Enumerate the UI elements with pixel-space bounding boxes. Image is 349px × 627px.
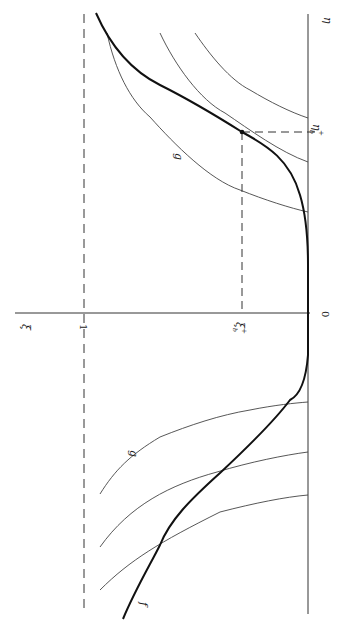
- svg-text:b: b: [232, 328, 239, 332]
- xi-b-plus-label: ξ b +: [232, 322, 248, 334]
- svg-text:b: b: [309, 130, 316, 134]
- svg-text:+: +: [317, 130, 325, 136]
- eta-b-plus-label: η b +: [309, 124, 325, 136]
- svg-text:+: +: [240, 328, 248, 334]
- xi-axis-label: ξ: [19, 324, 32, 331]
- g-curve-lower-3: [100, 495, 308, 590]
- g-label-lower: g: [127, 450, 140, 457]
- f-label: f: [137, 601, 150, 608]
- eta-axis-label: η: [321, 17, 334, 24]
- diagram-figure: η 0 ξ 1 ξ b + η b + g g f: [0, 0, 349, 627]
- g-curve-upper-1: [107, 33, 308, 212]
- point-b-marker: [240, 130, 245, 135]
- g-curve-upper-3: [195, 33, 308, 118]
- one-label: 1: [78, 324, 89, 330]
- f-curve: [96, 13, 308, 619]
- zero-label: 0: [320, 311, 331, 317]
- g-label-upper: g: [172, 153, 185, 160]
